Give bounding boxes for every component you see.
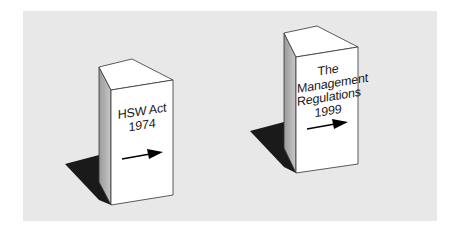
pillar-front-face [111, 80, 173, 205]
pillar-side-face [99, 67, 111, 205]
pillars-diagram [0, 0, 460, 235]
pillar-label-management-regulations: The Management Regulations 1999 [297, 59, 359, 123]
